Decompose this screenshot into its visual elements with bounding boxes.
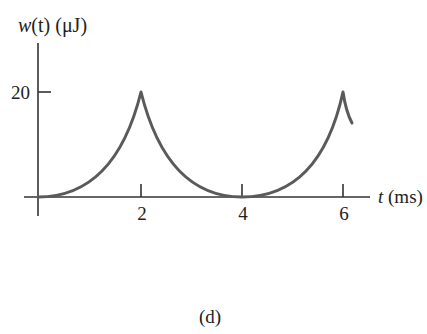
chart: w(t) (μJ) 20 2 4 6 t (ms) (d) (0, 0, 427, 334)
y-axis-label: w(t) (μJ) (18, 14, 87, 37)
x-tick-label-4: 4 (238, 203, 248, 224)
x-tick-label-2: 2 (137, 203, 147, 224)
figure-caption: (d) (199, 306, 221, 328)
x-tick-label-6: 6 (339, 203, 349, 224)
y-tick-label-20: 20 (11, 82, 30, 103)
x-axis-label: t (ms) (378, 186, 423, 208)
energy-curve (38, 92, 352, 197)
